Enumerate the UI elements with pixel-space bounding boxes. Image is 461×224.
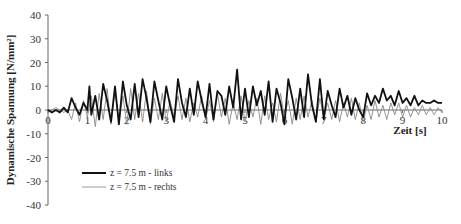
x-tick-label: 10 bbox=[437, 114, 449, 126]
legend-label-rechts: z = 7.5 m - rechts bbox=[110, 182, 177, 192]
line-chart: 403020100-10-20-30-40 012345678910 Dynam… bbox=[0, 0, 461, 224]
x-tick-label: 0 bbox=[45, 114, 51, 126]
y-tick-label: 20 bbox=[30, 57, 42, 69]
y-tick-label: -20 bbox=[26, 152, 41, 164]
y-axis: 403020100-10-20-30-40 bbox=[26, 9, 48, 211]
y-tick-label: 40 bbox=[30, 9, 42, 21]
y-tick-label: 10 bbox=[30, 80, 42, 92]
legend-label-links: z = 7.5 m - links bbox=[110, 168, 173, 178]
y-tick-label: 30 bbox=[30, 33, 42, 45]
y-tick-label: -10 bbox=[26, 128, 41, 140]
x-axis-title: Zeit [s] bbox=[393, 124, 426, 136]
y-axis-title: Dynamische Spannung [N/mm²] bbox=[4, 35, 16, 186]
legend: z = 7.5 m - links z = 7.5 m - rechts bbox=[82, 168, 177, 192]
y-tick-label: -30 bbox=[26, 175, 41, 187]
y-tick-label: -40 bbox=[26, 199, 41, 211]
y-tick-label: 0 bbox=[36, 104, 42, 116]
